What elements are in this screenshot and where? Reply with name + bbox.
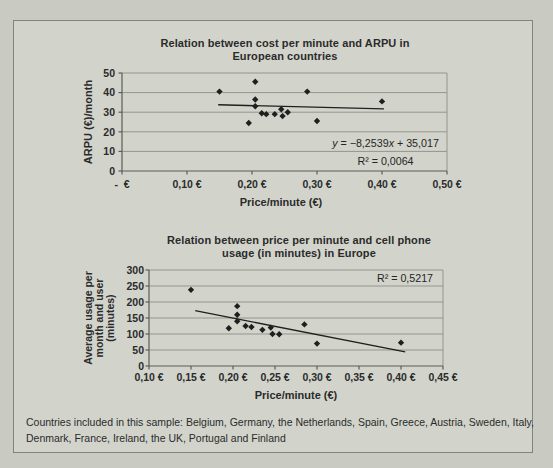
svg-text:0,35 €: 0,35 € xyxy=(344,371,373,383)
bottom-chart-title: Relation between price per minute and ce… xyxy=(137,234,461,260)
svg-text:0,30 €: 0,30 € xyxy=(302,371,331,383)
equation-end: + 35,017 xyxy=(394,137,439,149)
svg-text:0,45 €: 0,45 € xyxy=(428,371,457,383)
svg-text:10: 10 xyxy=(103,145,115,157)
top-chart-r-squared: R² = 0,0064 xyxy=(308,155,463,167)
bottom-chart-title-line2: usage (in minutes) in Europe xyxy=(137,247,461,260)
svg-text:300: 300 xyxy=(126,264,144,276)
top-chart-trendline-equation: y = −8,2539x + 35,017 xyxy=(308,137,463,149)
bottom-chart-y-axis-title-line3: (minutes) xyxy=(105,271,116,365)
svg-text:20: 20 xyxy=(103,126,115,138)
svg-text:0,50 €: 0,50 € xyxy=(432,178,461,190)
svg-text:0,10 €: 0,10 € xyxy=(172,178,201,190)
svg-text:0,30 €: 0,30 € xyxy=(302,178,331,190)
bottom-chart-title-line1: Relation between price per minute and ce… xyxy=(137,234,461,247)
top-chart-x-axis-title: Price/minute (€) xyxy=(131,196,431,208)
svg-text:250: 250 xyxy=(126,280,144,292)
svg-text:50: 50 xyxy=(103,67,115,79)
svg-text:0,15 €: 0,15 € xyxy=(176,371,205,383)
top-chart-y-axis-title: ARPU (€)/month xyxy=(82,80,94,164)
top-chart-title-line1: Relation between cost per minute and ARP… xyxy=(122,37,448,50)
scanned-figure-page: - €0,10 €0,20 €0,30 €0,40 €0,50 €0102030… xyxy=(0,0,553,468)
svg-text:200: 200 xyxy=(126,296,144,308)
countries-note-line2: Denmark, France, Ireland, the UK, Portug… xyxy=(26,431,526,447)
svg-text:100: 100 xyxy=(126,328,144,340)
top-chart-title: Relation between cost per minute and ARP… xyxy=(122,37,448,63)
equation-mid: = −8,2539 xyxy=(338,137,389,149)
svg-text:0,10 €: 0,10 € xyxy=(134,371,163,383)
countries-note: Countries included in this sample: Belgi… xyxy=(26,415,526,446)
bottom-chart-y-axis-title: Average usage per month and user (minute… xyxy=(83,271,116,365)
svg-text:30: 30 xyxy=(103,106,115,118)
countries-note-line1: Countries included in this sample: Belgi… xyxy=(26,415,526,431)
svg-text:0: 0 xyxy=(109,165,115,177)
svg-text:40: 40 xyxy=(103,86,115,98)
top-chart-title-line2: European countries xyxy=(122,50,448,63)
bottom-chart-x-axis-title: Price/minute (€) xyxy=(146,389,446,401)
svg-text:0,40 €: 0,40 € xyxy=(386,371,415,383)
svg-text:0: 0 xyxy=(138,360,144,372)
svg-text:- €: - € xyxy=(114,178,129,190)
svg-text:150: 150 xyxy=(126,312,144,324)
svg-text:0,20 €: 0,20 € xyxy=(237,178,266,190)
bottom-chart-r-squared: R² = 0,5217 xyxy=(335,272,475,284)
svg-text:0,20 €: 0,20 € xyxy=(218,371,247,383)
svg-text:50: 50 xyxy=(132,344,144,356)
svg-text:0,40 €: 0,40 € xyxy=(367,178,396,190)
svg-text:0,25 €: 0,25 € xyxy=(260,371,289,383)
